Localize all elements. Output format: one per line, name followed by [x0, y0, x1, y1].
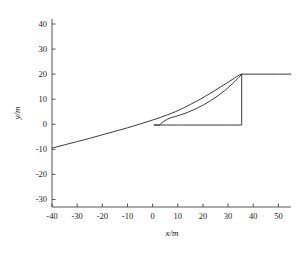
- x-tick-label: 50: [274, 211, 283, 221]
- x-tick-label: -30: [71, 211, 82, 221]
- data-series-outbound-path: [52, 74, 291, 148]
- x-tick-label: -10: [122, 211, 133, 221]
- y-tick-label: 10: [39, 94, 48, 104]
- y-tick-label: -30: [36, 194, 47, 204]
- x-axis-title: x/m: [165, 228, 179, 238]
- y-tick-label: -10: [36, 144, 47, 154]
- y-tick-label: 0: [43, 119, 47, 129]
- x-tick-label: 0: [151, 211, 155, 221]
- x-tick-label: 40: [249, 211, 258, 221]
- y-tick-label: 20: [39, 69, 48, 79]
- x-tick-label: 10: [174, 211, 183, 221]
- x-tick-label: 20: [199, 211, 208, 221]
- y-tick-label: 40: [39, 19, 48, 29]
- x-tick-label: -40: [46, 211, 57, 221]
- tick-label-group: -40-30-20-1001020304050-30-20-1001020304…: [36, 19, 283, 221]
- chart-canvas: -40-30-20-1001020304050-30-20-1001020304…: [0, 0, 300, 254]
- x-tick-label: -20: [97, 211, 108, 221]
- y-tick-label: -20: [36, 169, 47, 179]
- data-series-group: [52, 74, 291, 148]
- y-axis-title: y/m: [12, 106, 22, 120]
- y-tick-label: 30: [39, 44, 48, 54]
- figure-container: -40-30-20-1001020304050-30-20-1001020304…: [0, 0, 300, 254]
- x-tick-label: 30: [224, 211, 233, 221]
